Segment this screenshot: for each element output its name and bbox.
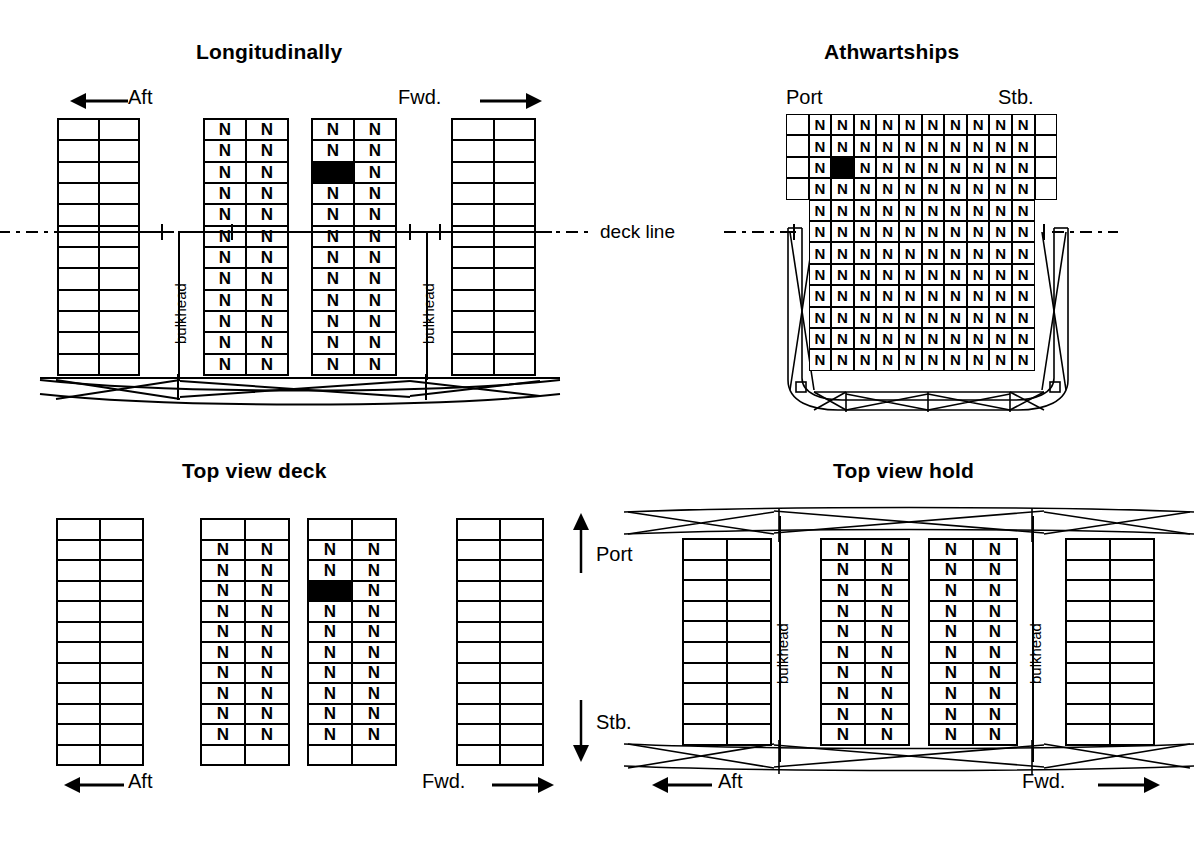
container-cell: N (822, 561, 866, 580)
container-cell: N (974, 725, 1016, 744)
longitudinal-fwd-label: Fwd. (398, 86, 441, 109)
container-cell (59, 184, 100, 203)
container-row (59, 333, 138, 354)
container-row (1067, 561, 1153, 582)
container-row (684, 643, 770, 664)
container-row (309, 520, 395, 541)
container-row (458, 602, 542, 623)
athwartships-cell: N (967, 242, 990, 263)
athwartships-cell: N (876, 328, 899, 349)
container-row: NN (202, 561, 288, 582)
athwartships-cell (1035, 221, 1058, 242)
athwartships-cell: N (876, 349, 899, 370)
container-cell: N (355, 269, 395, 288)
athwartships-cell: N (967, 221, 990, 242)
container-cell: N (974, 540, 1016, 559)
athwartships-port-label: Port (786, 86, 823, 109)
container-cell: N (355, 248, 395, 267)
bulkhead-label: bulkhead (420, 283, 437, 344)
athwartships-cell: N (854, 349, 877, 370)
container-cell (101, 541, 142, 560)
container-cell (495, 184, 535, 203)
container-cell (453, 120, 495, 139)
container-row: NN (309, 684, 395, 705)
athwartships-cell (786, 135, 809, 156)
container-cell: N (246, 561, 288, 580)
athwartships-cell: N (967, 349, 990, 370)
container-cell (501, 746, 542, 765)
top-deck-fwd-label: Fwd. (422, 770, 465, 793)
athwartships-cell: N (831, 328, 854, 349)
athwartships-cell: N (944, 264, 967, 285)
container-cell (101, 705, 142, 724)
athwartships-cell (786, 264, 809, 285)
athwartships-cell (786, 328, 809, 349)
container-cell (58, 602, 101, 621)
athwartships-cell (786, 221, 809, 242)
athwartships-cell: N (854, 264, 877, 285)
container-cell: N (353, 705, 395, 724)
container-cell: N (246, 725, 288, 744)
container-cell (458, 684, 501, 703)
container-cell: N (974, 684, 1016, 703)
container-cell (458, 602, 501, 621)
athwartships-row: NNNNNNNNNN (786, 349, 1057, 370)
container-row: NN (205, 291, 287, 312)
container-cell: N (246, 684, 288, 703)
container-row (59, 141, 138, 162)
container-row (58, 746, 142, 765)
athwartships-cell: N (967, 307, 990, 328)
fwd-arrow-icon (492, 776, 554, 794)
container-row: NN (313, 184, 395, 205)
container-cell-highlighted (309, 582, 353, 601)
container-cell: N (930, 705, 974, 724)
athwartships-cell: N (967, 157, 990, 178)
container-cell (458, 582, 501, 601)
athwartships-cell (1035, 242, 1058, 263)
container-cell: N (353, 541, 395, 560)
container-cell (1111, 725, 1153, 744)
athwartships-cell (1035, 328, 1058, 349)
container-row: NN (930, 643, 1016, 664)
container-row: NN (205, 333, 287, 354)
top-hold-rail-upper (624, 508, 1194, 542)
athwartships-cell: N (944, 114, 967, 135)
container-cell: N (355, 312, 395, 331)
container-row (453, 248, 534, 269)
container-cell (58, 643, 101, 662)
athwartships-row: NNNNNNNNNN (786, 264, 1057, 285)
athwartships-cell: N (899, 178, 922, 199)
container-row: NN (205, 141, 287, 162)
container-cell: N (866, 664, 908, 683)
container-cell (453, 333, 495, 352)
container-cell (59, 120, 100, 139)
athwartships-row: NNNNNNNNNN (786, 242, 1057, 263)
container-row (59, 163, 138, 184)
longitudinal-stack-fwd-hold: NNNNNNNNNNNNNNNNNNNNNNN (311, 118, 397, 376)
container-cell (501, 705, 542, 724)
athwartships-cell: N (1012, 221, 1035, 242)
container-cell (684, 705, 728, 724)
top-deck-stb-label: Stb. (596, 711, 632, 734)
container-cell (59, 248, 100, 267)
container-cell (501, 561, 542, 580)
container-cell (246, 746, 288, 765)
container-row (1067, 540, 1153, 561)
container-cell (458, 643, 501, 662)
container-cell: N (866, 540, 908, 559)
container-cell: N (930, 725, 974, 744)
container-cell: N (202, 643, 246, 662)
container-cell: N (309, 643, 353, 662)
container-row (202, 746, 288, 765)
container-cell: N (822, 725, 866, 744)
aft-arrow-icon (652, 776, 714, 794)
athwartships-cell: N (967, 200, 990, 221)
container-cell: N (353, 602, 395, 621)
container-cell (495, 333, 535, 352)
container-cell: N (205, 184, 247, 203)
container-cell (100, 333, 139, 352)
athwartships-cell (1035, 157, 1058, 178)
container-cell (100, 120, 139, 139)
athwartships-cell (786, 157, 809, 178)
top-hold-stack-fwd: NNNNNNNNNNNNNNNNNNNN (928, 538, 1018, 746)
